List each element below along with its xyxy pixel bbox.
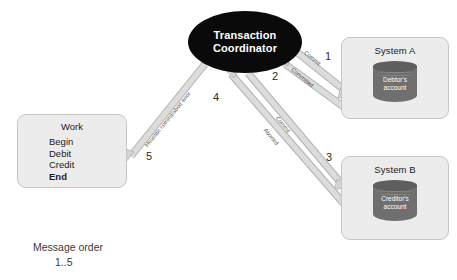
creditor-db-label-line1: Creditor's	[373, 195, 417, 203]
creditor-db-label-line2: account	[373, 203, 417, 211]
work-step-end: End	[49, 171, 126, 183]
system-b-node: System B Creditor's account	[341, 156, 449, 240]
transaction-coordinator-node: Transaction Coordinator	[188, 11, 302, 73]
debtor-db-label-line1: Debtor's	[373, 76, 417, 84]
edge-number-1: 1	[325, 50, 331, 62]
work-step-debit: Debit	[49, 148, 126, 160]
edge-number-5: 5	[146, 150, 152, 162]
caption-line2: 1..5	[55, 255, 103, 270]
message-order-caption: Message order 1..5	[33, 240, 103, 270]
work-steps-list: Begin Debit Credit End	[49, 136, 126, 182]
database-icon-debtor: Debtor's account	[373, 61, 417, 105]
work-step-begin: Begin	[49, 136, 126, 148]
coordinator-title-line1: Transaction	[214, 29, 277, 42]
caption-line1: Message order	[33, 241, 103, 253]
work-node: Work Begin Debit Credit End	[17, 114, 127, 188]
system-b-title: System B	[374, 164, 415, 175]
database-icon-creditor: Creditor's account	[373, 180, 417, 224]
work-title: Work	[18, 121, 126, 132]
edge-number-2: 2	[272, 70, 278, 82]
edge-number-4: 4	[213, 91, 219, 103]
system-a-node: System A Debtor's account	[341, 37, 449, 119]
work-step-credit: Credit	[49, 159, 126, 171]
coordinator-title-line2: Coordinator	[213, 42, 277, 55]
edge-number-3: 3	[326, 151, 332, 163]
arrow-heuristic-error-work	[123, 64, 205, 163]
system-a-title: System A	[375, 45, 416, 56]
debtor-db-label-line2: account	[373, 84, 417, 92]
arrow-aborted-system-b	[224, 69, 345, 205]
